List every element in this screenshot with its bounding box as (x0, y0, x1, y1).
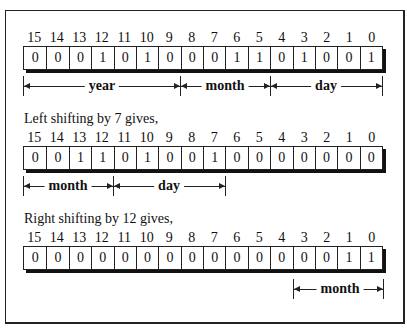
arrow-left-icon (114, 183, 120, 189)
arrow-right-icon (219, 183, 225, 189)
bit-register: 0 0 1 1 0 1 0 0 1 0 0 0 0 0 0 0 (23, 146, 383, 170)
bit-cell: 0 (270, 47, 292, 69)
bit-pos: 0 (361, 30, 384, 46)
bit-cell: 0 (114, 47, 136, 69)
bit-pos: 6 (226, 230, 249, 246)
bit-pos: 11 (113, 230, 136, 246)
bit-cell: 0 (293, 247, 315, 269)
field-month: month (293, 279, 384, 299)
bit-pos: 0 (361, 230, 384, 246)
bit-cell: 1 (360, 247, 382, 269)
field-label: day (311, 78, 341, 94)
bit-cell: 0 (293, 147, 315, 169)
bit-cell: 0 (337, 47, 359, 69)
bit-cell: 0 (337, 147, 359, 169)
caption-left-shift: Left shifting by 7 gives, (24, 111, 158, 127)
arrow-right-icon (376, 83, 382, 89)
bit-cell: 0 (136, 247, 158, 269)
field-month: month (23, 176, 114, 196)
bit-cell: 0 (46, 247, 68, 269)
bit-pos: 7 (203, 30, 226, 46)
bit-pos: 9 (158, 230, 181, 246)
arrow-left-icon (24, 183, 30, 189)
field-label: day (154, 178, 184, 194)
field-month: month (180, 76, 271, 96)
bit-pos: 5 (248, 130, 271, 146)
bit-cell: 1 (91, 147, 113, 169)
bit-cell: 1 (136, 47, 158, 69)
bit-cell: 0 (24, 147, 46, 169)
bit-cell: 0 (24, 247, 46, 269)
bit-cell: 0 (225, 147, 247, 169)
bit-pos: 7 (203, 130, 226, 146)
bit-pos: 8 (181, 130, 204, 146)
bit-cell: 0 (46, 147, 68, 169)
bit-pos: 10 (136, 30, 159, 46)
bit-cell: 0 (203, 247, 225, 269)
bit-cell: 0 (315, 147, 337, 169)
bit-cell: 0 (24, 47, 46, 69)
field-day: day (113, 176, 226, 196)
bit-pos: 2 (316, 230, 339, 246)
bit-pos: 4 (271, 30, 294, 46)
arrow-left-icon (24, 83, 30, 89)
bit-cell: 1 (203, 147, 225, 169)
field-boundary (225, 176, 226, 196)
bit-pos: 12 (91, 30, 114, 46)
bit-pos: 5 (248, 30, 271, 46)
bit-pos: 15 (23, 230, 46, 246)
bit-pos: 4 (271, 230, 294, 246)
bit-pos: 15 (23, 30, 46, 46)
bit-pos: 14 (46, 130, 69, 146)
bit-cell: 0 (181, 147, 203, 169)
bit-pos: 7 (203, 230, 226, 246)
field-label: year (85, 78, 119, 94)
field-boundary (382, 76, 383, 96)
bit-cell: 0 (158, 47, 180, 69)
bit-cell: 0 (158, 147, 180, 169)
field-label: month (45, 178, 92, 194)
bit-cell: 0 (203, 47, 225, 69)
bit-position-labels: 15 14 13 12 11 10 9 8 7 6 5 4 3 2 1 0 (23, 30, 383, 46)
bit-pos: 9 (158, 30, 181, 46)
bit-register: 0 0 0 1 0 1 0 0 0 1 1 0 1 0 0 1 (23, 46, 383, 70)
bit-pos: 3 (293, 30, 316, 46)
bit-cell: 1 (248, 47, 270, 69)
arrow-left-icon (271, 83, 277, 89)
field-year: year (23, 76, 181, 96)
bit-pos: 6 (226, 30, 249, 46)
bit-pos: 0 (361, 130, 384, 146)
bit-pos: 10 (136, 130, 159, 146)
bit-pos: 11 (113, 130, 136, 146)
bit-cell: 0 (114, 147, 136, 169)
bit-pos: 3 (293, 230, 316, 246)
bit-pos: 15 (23, 130, 46, 146)
bit-cell: 0 (270, 247, 292, 269)
field-label: month (317, 281, 364, 297)
bit-cell: 0 (360, 147, 382, 169)
arrow-right-icon (377, 286, 383, 292)
field-day: day (270, 76, 383, 96)
bit-cell: 0 (46, 47, 68, 69)
bit-cell: 0 (91, 247, 113, 269)
bit-cell: 1 (360, 47, 382, 69)
field-boundary (383, 279, 384, 299)
bit-cell: 1 (136, 147, 158, 169)
bit-pos: 11 (113, 30, 136, 46)
bit-cell: 0 (114, 247, 136, 269)
bit-pos: 14 (46, 230, 69, 246)
bit-pos: 2 (316, 130, 339, 146)
bit-cell: 0 (315, 247, 337, 269)
bit-pos: 1 (338, 30, 361, 46)
caption-right-shift: Right shifting by 12 gives, (24, 211, 173, 227)
bit-cell: 0 (248, 247, 270, 269)
bit-cell: 1 (337, 247, 359, 269)
bit-pos: 9 (158, 130, 181, 146)
bit-pos: 1 (338, 230, 361, 246)
bit-cell: 0 (315, 47, 337, 69)
bit-pos: 13 (68, 30, 91, 46)
bit-pos: 6 (226, 130, 249, 146)
bit-cell: 0 (181, 47, 203, 69)
bit-pos: 5 (248, 230, 271, 246)
bit-pos: 10 (136, 230, 159, 246)
